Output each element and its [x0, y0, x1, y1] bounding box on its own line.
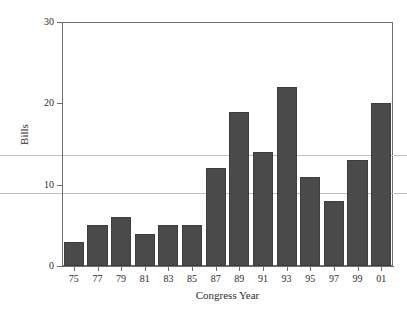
bar[interactable]: [111, 217, 131, 266]
x-axis-title: Congress Year: [62, 289, 393, 302]
x-tick-label: 01: [366, 273, 396, 284]
x-tick-mark: [239, 267, 240, 271]
bar[interactable]: [253, 152, 273, 266]
y-axis-title: Bills: [18, 105, 31, 165]
x-tick-mark: [216, 267, 217, 271]
y-tick-label: 10: [34, 180, 54, 190]
x-tick-mark: [381, 267, 382, 271]
y-tick-mark: [57, 103, 62, 104]
bar[interactable]: [371, 103, 391, 266]
bar[interactable]: [277, 87, 297, 266]
bar[interactable]: [135, 234, 155, 267]
x-tick-mark: [263, 267, 264, 271]
bar-chart-figure: 0102030 7577798183858789919395979901 Con…: [0, 0, 407, 313]
x-tick-mark: [74, 267, 75, 271]
x-tick-mark: [145, 267, 146, 271]
x-tick-mark: [287, 267, 288, 271]
y-tick-label: 30: [34, 17, 54, 27]
bar[interactable]: [229, 112, 249, 267]
x-axis-line: [62, 266, 394, 267]
bar[interactable]: [158, 225, 178, 266]
x-tick-mark: [168, 267, 169, 271]
x-tick-mark: [98, 267, 99, 271]
bar[interactable]: [206, 168, 226, 266]
x-tick-mark: [121, 267, 122, 271]
bar[interactable]: [182, 225, 202, 266]
x-tick-mark: [334, 267, 335, 271]
x-tick-mark: [358, 267, 359, 271]
bar[interactable]: [347, 160, 367, 266]
y-axis-line: [62, 22, 63, 267]
plot-area: [62, 22, 393, 266]
x-tick-mark: [192, 267, 193, 271]
bar[interactable]: [64, 242, 84, 266]
bar[interactable]: [87, 225, 107, 266]
y-tick-mark: [57, 22, 62, 23]
x-tick-mark: [310, 267, 311, 271]
y-tick-mark: [57, 185, 62, 186]
bar[interactable]: [300, 177, 320, 267]
y-tick-label: 0: [34, 261, 54, 271]
y-tick-label: 20: [34, 98, 54, 108]
bar[interactable]: [324, 201, 344, 266]
